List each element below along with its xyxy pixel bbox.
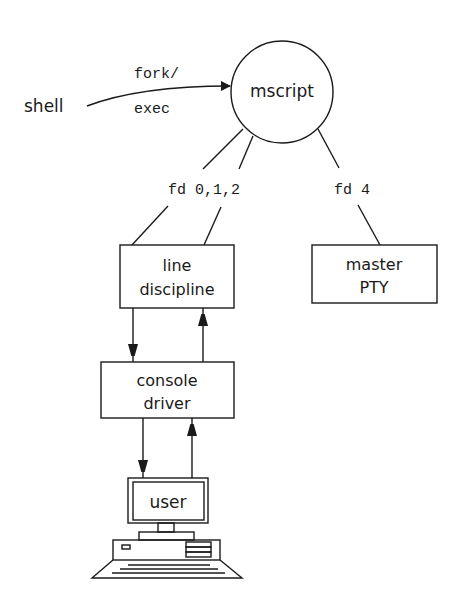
line-discipline-label-1: line — [163, 256, 192, 275]
console-driver-label-1: console — [136, 371, 197, 390]
exec-label: exec — [134, 101, 170, 118]
shell-label: shell — [24, 96, 64, 116]
fork-label: fork/ — [134, 66, 179, 83]
monitor-neck — [158, 523, 174, 532]
fd4-label: fd 4 — [334, 182, 370, 199]
master-pty-label-2: PTY — [359, 278, 388, 297]
fd4-upper-line — [318, 129, 339, 168]
fd4-lower-line — [358, 205, 380, 245]
fd12-lower-line — [204, 207, 221, 245]
drive-bay-3 — [186, 552, 211, 557]
drive-bay-1 — [186, 542, 211, 547]
fd0-upper-line — [203, 129, 243, 169]
monitor-base — [139, 532, 194, 540]
fd12-upper-line — [239, 136, 253, 169]
fd012-label: fd 0,1,2 — [168, 182, 240, 199]
console-driver-label-2: driver — [143, 394, 190, 413]
drive-bay-2 — [186, 547, 211, 552]
line-discipline-label-2: discipline — [139, 280, 214, 299]
user-label: user — [149, 492, 186, 512]
master-pty-label-1: master — [346, 255, 403, 274]
mscript-label: mscript — [250, 81, 314, 101]
power-button — [122, 545, 130, 549]
diagram-canvas: shell fork/ exec mscript fd 0,1,2 fd 4 l… — [0, 0, 468, 615]
fd0-lower-line — [132, 206, 168, 245]
